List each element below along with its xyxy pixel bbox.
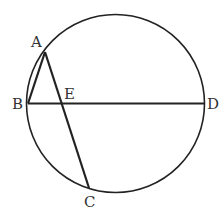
label-point-b: B [12,95,23,113]
label-point-e: E [64,85,75,103]
label-point-d: D [207,95,219,113]
label-point-a: A [30,33,42,51]
segment-ac [45,52,89,188]
geometry-diagram: A B E D C [0,0,223,210]
label-point-c: C [84,193,95,210]
